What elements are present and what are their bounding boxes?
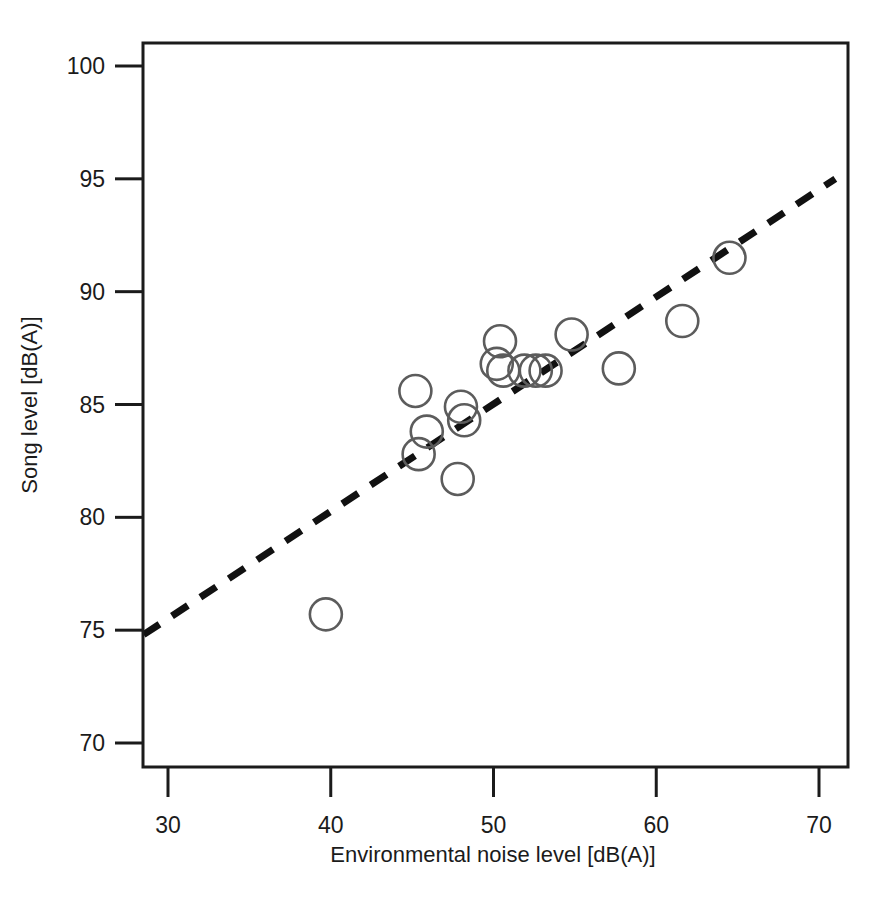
data-point-marker (411, 416, 443, 448)
x-tick-label: 50 (481, 812, 507, 838)
x-tick-label: 30 (155, 812, 181, 838)
data-point-marker (403, 438, 435, 470)
data-point-marker (399, 375, 431, 407)
tick-marks-group (115, 66, 819, 797)
x-tick-label: 70 (806, 812, 832, 838)
x-axis-title: Environmental noise level [dB(A)] (330, 842, 655, 867)
data-point-marker (556, 319, 588, 351)
data-points-group (310, 242, 746, 631)
x-tick-label: 40 (318, 812, 344, 838)
y-tick-label: 85 (79, 392, 105, 418)
y-tick-label: 90 (79, 279, 105, 305)
scatter-plot-figure: 7075808590951003040506070 Environmental … (0, 0, 886, 904)
regression-trend-line (144, 179, 836, 635)
y-tick-label: 80 (79, 504, 105, 530)
y-tick-label: 70 (79, 730, 105, 756)
y-tick-label: 100 (67, 53, 105, 79)
y-tick-label: 95 (79, 166, 105, 192)
data-point-marker (666, 305, 698, 337)
trend-line-group (144, 179, 836, 635)
y-tick-label: 75 (79, 617, 105, 643)
data-point-marker (484, 325, 516, 357)
data-point-marker (442, 463, 474, 495)
y-axis-title: Song level [dB(A)] (17, 316, 42, 493)
data-point-marker (603, 352, 635, 384)
x-tick-label: 60 (643, 812, 669, 838)
tick-labels-group: 7075808590951003040506070 (67, 53, 832, 838)
plot-canvas: 7075808590951003040506070 Environmental … (0, 0, 886, 904)
data-point-marker (310, 598, 342, 630)
